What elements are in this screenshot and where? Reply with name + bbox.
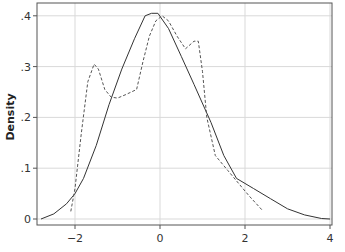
kernel-density-line	[71, 16, 262, 212]
density-chart: 0.1.2.3.4 −2024 Density	[0, 0, 345, 252]
y-tick-label: .1	[21, 162, 32, 175]
y-tick-label: 0	[24, 213, 31, 226]
y-axis: 0.1.2.3.4	[21, 10, 38, 226]
x-axis: −2024	[67, 225, 334, 245]
y-axis-title: Density	[4, 93, 17, 140]
grid-lines	[37, 3, 332, 225]
plot-frame	[37, 3, 332, 225]
y-tick-label: .2	[21, 111, 32, 124]
y-tick-label: .3	[21, 61, 32, 74]
data-series	[41, 13, 330, 219]
x-tick-label: −2	[67, 232, 83, 245]
normal-density-line	[41, 13, 330, 219]
y-tick-label: .4	[21, 10, 32, 23]
x-tick-label: 2	[242, 232, 249, 245]
x-tick-label: 4	[327, 232, 334, 245]
x-tick-label: 0	[157, 232, 164, 245]
